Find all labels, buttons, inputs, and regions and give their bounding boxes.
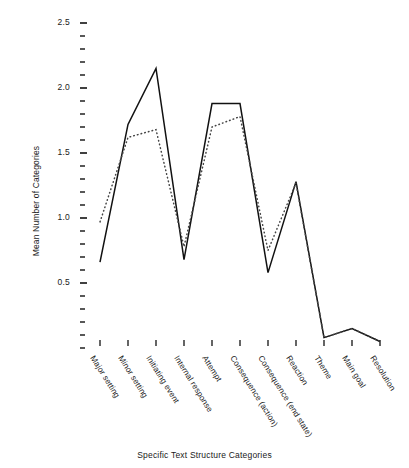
chart-figure: Mean Number of Categories Specific Text … (0, 0, 409, 468)
y-tick-label: 1.0 (36, 212, 70, 222)
x-axis-title: Specific Text Structure Categories (0, 450, 409, 460)
y-tick-label: 2.0 (36, 82, 70, 92)
x-axis-ticks (100, 340, 380, 346)
series-dotted-line (100, 117, 380, 342)
y-axis-ticks (80, 23, 87, 348)
y-tick-label: 0.5 (36, 277, 70, 287)
y-tick-label: 2.5 (36, 17, 70, 27)
y-axis-title: Mean Number of Categories (31, 121, 41, 281)
data-series-group (100, 69, 380, 342)
y-tick-label: 1.5 (36, 147, 70, 157)
series-solid-line (100, 69, 380, 342)
